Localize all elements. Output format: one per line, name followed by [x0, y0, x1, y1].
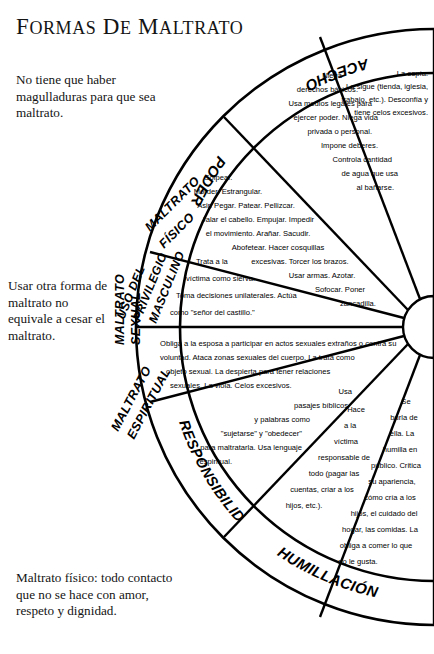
svg-text:Usa: Usa: [338, 387, 352, 396]
svg-text:hijos, etc.).: hijos, etc.).: [286, 501, 323, 510]
svg-text:ella. La: ella. La: [390, 429, 415, 438]
body-text-maltrato-sexual: Obliga a la esposa a participar en actos…: [160, 339, 396, 390]
svg-text:excesivas. Torcer los brazos.: excesivas. Torcer los brazos.: [251, 257, 348, 266]
svg-text:Usar armas. Azotar.: Usar armas. Azotar.: [289, 271, 356, 280]
body-text-privilegio-masculino: Trata a la víctima como sierva. Toma dec…: [170, 257, 298, 317]
svg-text:todo (pagar las: todo (pagar las: [309, 469, 360, 478]
svg-text:objeto sexual. La despierta pa: objeto sexual. La despierta para tener r…: [166, 367, 330, 376]
svg-text:La sigue (tienda, iglesia,: La sigue (tienda, iglesia,: [346, 82, 428, 91]
svg-text:espiritual.: espiritual.: [200, 457, 233, 466]
svg-text:su apariencia,: su apariencia,: [368, 477, 415, 486]
svg-text:cuentas, criar a los: cuentas, criar a los: [290, 485, 354, 494]
svg-text:a la: a la: [344, 421, 357, 430]
wheel-spokes: [136, 29, 434, 625]
svg-text:hijos, el cuidado del: hijos, el cuidado del: [351, 509, 418, 518]
svg-text:de agua que usa: de agua que usa: [341, 169, 398, 178]
svg-text:Usa medios legales para: Usa medios legales para: [288, 99, 372, 108]
svg-text:víctima como sierva.: víctima como sierva.: [186, 274, 255, 283]
svg-text:zancadilla.: zancadilla.: [340, 299, 376, 308]
poster-page: FORMAS DE MALTRATO No tiene que haber ma…: [0, 0, 434, 654]
svg-text:para maltratarla. Usa lenguaje: para maltratarla. Usa lenguaje: [200, 443, 302, 452]
svg-text:Asir. Pegar. Patear. Pellizcar: Asir. Pegar. Patear. Pellizcar.: [197, 201, 295, 210]
svg-text:pasajes bíblicos: pasajes bíblicos: [294, 401, 348, 410]
svg-text:Morder. Estrangular.: Morder. Estrangular.: [194, 187, 262, 196]
svg-text:responsable de: responsable de: [318, 453, 370, 462]
svg-text:Obliga a la esposa a participa: Obliga a la esposa a participar en actos…: [160, 339, 396, 348]
svg-text:Hace: Hace: [347, 405, 365, 414]
svg-text:voluntad. Ataca zonas sexuales: voluntad. Ataca zonas sexuales del cuerp…: [160, 353, 355, 362]
svg-text:sexuales. La viola. Celos exce: sexuales. La viola. Celos excesivos.: [170, 381, 292, 390]
svg-text:hogar, las comidas. La: hogar, las comidas. La: [342, 525, 419, 534]
svg-text:el movimiento. Arañar. Sacudir: el movimiento. Arañar. Sacudir.: [206, 229, 311, 238]
svg-text:Sofocar. Poner: Sofocar. Poner: [315, 285, 366, 294]
svg-text:"sujetarse" y "obedecer": "sujetarse" y "obedecer": [221, 429, 303, 438]
svg-text:como "señor del castillo.": como "señor del castillo.": [170, 308, 255, 317]
svg-text:La espía.: La espía.: [397, 69, 428, 78]
svg-text:Controla cantidad: Controla cantidad: [332, 155, 392, 164]
svg-text:Golpear.: Golpear.: [204, 173, 233, 182]
svg-text:Trata a la: Trata a la: [196, 257, 229, 266]
svg-text:derechos básicos.: derechos básicos.: [297, 85, 358, 94]
abuse-wheel-diagram: ACECHO PODER MALTRATO FÍSICO USO DEL PRI…: [0, 0, 434, 654]
rim-label-maltrato-sexual-line1: MALTRATO: [113, 274, 127, 345]
svg-text:público. Critica: público. Critica: [371, 461, 422, 470]
rim-label-maltrato-sexual-line2: SEXUAL: [129, 292, 143, 345]
svg-text:humilla en: humilla en: [383, 445, 418, 454]
wheel-hub: [403, 296, 434, 358]
svg-text:Niega: Niega: [322, 71, 343, 80]
svg-text:y palabras como: y palabras como: [254, 415, 310, 424]
svg-text:obliga a comer lo que: obliga a comer lo que: [340, 541, 413, 550]
svg-text:no le gusta.: no le gusta.: [338, 557, 377, 566]
svg-text:al bañarse.: al bañarse.: [356, 183, 394, 192]
svg-text:Toma decisiones unilaterales.: Toma decisiones unilaterales. Actúa: [176, 291, 298, 300]
svg-text:Impone deberes.: Impone deberes.: [321, 141, 378, 150]
svg-text:cómo cría a los: cómo cría a los: [364, 493, 416, 502]
svg-text:Se: Se: [401, 397, 410, 406]
svg-text:víctima: víctima: [334, 437, 359, 446]
svg-text:burla de: burla de: [390, 413, 417, 422]
svg-text:privada o personal.: privada o personal.: [307, 127, 372, 136]
svg-text:ejercer poder. Niega vida: ejercer poder. Niega vida: [294, 113, 379, 122]
svg-text:Jalar el cabello. Empujar. Imp: Jalar el cabello. Empujar. Impedir: [202, 215, 315, 224]
svg-text:Abofetear. Hacer cosquillas: Abofetear. Hacer cosquillas: [232, 243, 325, 252]
rim-label-maltrato-espiritual: MALTRATO ESPIRITUAL: [108, 364, 173, 441]
